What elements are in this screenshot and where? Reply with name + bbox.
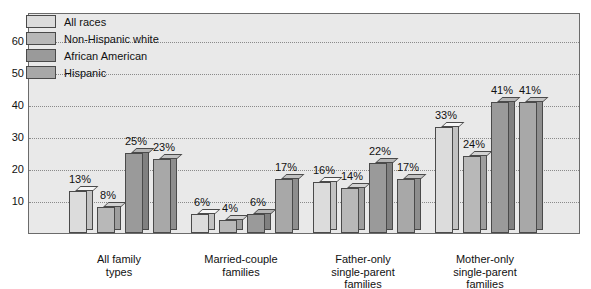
y-tick-label: 30 (0, 132, 24, 143)
bar (519, 102, 537, 233)
bar-top-face (441, 122, 465, 127)
x-category-label: Mother-onlysingle-parentfamilies (399, 253, 571, 289)
y-tick-label: 10 (0, 196, 24, 207)
bar-value-label: 6% (238, 197, 278, 208)
bar (125, 153, 143, 233)
legend-swatch-all-races (26, 15, 56, 28)
bar-front-face (341, 188, 359, 233)
bar-value-label: 17% (266, 162, 306, 173)
bar-top-face (497, 97, 521, 102)
bar (69, 191, 87, 233)
x-category-label-line: Mother-only (399, 253, 571, 266)
bar-value-label: 33% (426, 110, 466, 121)
legend-item: Hispanic (26, 64, 159, 81)
bar-side-face (481, 153, 487, 230)
legend-swatch-african-american (26, 49, 56, 62)
legend-swatch-non-hispanic-white (26, 32, 56, 45)
bar (369, 163, 387, 233)
bar-value-label: 41% (510, 85, 550, 96)
bar-side-face (537, 99, 543, 230)
bar-top-face (159, 154, 183, 159)
legend-label: African American (64, 50, 147, 62)
bar-value-label: 23% (144, 142, 184, 153)
bar (313, 182, 331, 233)
bar-value-label: 22% (360, 146, 400, 157)
bar-side-face (415, 176, 421, 230)
legend-label: All races (64, 16, 106, 28)
bar-front-face (491, 102, 509, 233)
bar-front-face (463, 156, 481, 233)
bar (463, 156, 481, 233)
x-category-label-line: families (399, 278, 571, 289)
bar (397, 179, 415, 233)
bar-top-face (525, 97, 549, 102)
bar-front-face (369, 163, 387, 233)
bar-front-face (153, 159, 171, 233)
bar-front-face (519, 102, 537, 233)
bar-front-face (69, 191, 87, 233)
legend-swatch-hispanic (26, 66, 56, 79)
bar-front-face (397, 179, 415, 233)
bar-side-face (293, 176, 299, 230)
legend-item: All races (26, 13, 159, 30)
bar-side-face (143, 150, 149, 230)
bar-value-label: 14% (332, 171, 372, 182)
bar-front-face (275, 179, 293, 233)
bar (153, 159, 171, 233)
bar-top-face (281, 174, 305, 179)
legend-label: Hispanic (64, 67, 106, 79)
bar-front-face (219, 220, 237, 233)
bar-value-label: 17% (388, 162, 428, 173)
bar-side-face (115, 204, 121, 230)
y-tick-label: 60 (0, 36, 24, 47)
bar (97, 207, 115, 233)
y-tick-label: 50 (0, 68, 24, 79)
legend-label: Non-Hispanic white (64, 33, 159, 45)
bar-side-face (359, 185, 365, 230)
y-tick-label: 40 (0, 100, 24, 111)
bar-value-label: 24% (454, 139, 494, 150)
bar-front-face (97, 207, 115, 233)
bar (435, 127, 453, 233)
bar (275, 179, 293, 233)
bar-side-face (509, 99, 515, 230)
bar-side-face (171, 156, 177, 230)
bar-side-face (331, 179, 337, 230)
bar-top-face (469, 151, 493, 156)
x-category-label-line: single-parent (399, 266, 571, 279)
bar-top-face (347, 183, 371, 188)
bar-top-face (403, 174, 427, 179)
bar (247, 214, 265, 233)
bar-top-face (225, 215, 249, 220)
bar-value-label: 13% (60, 174, 100, 185)
bar-top-face (103, 202, 127, 207)
legend-item: African American (26, 47, 159, 64)
bar-top-face (253, 209, 277, 214)
chart-legend: All races Non-Hispanic white African Ame… (26, 13, 159, 81)
bar (491, 102, 509, 233)
bar-front-face (247, 214, 265, 233)
bar-value-label: 8% (88, 190, 128, 201)
legend-item: Non-Hispanic white (26, 30, 159, 47)
bar (341, 188, 359, 233)
bar-front-face (125, 153, 143, 233)
bar (191, 214, 209, 233)
bar-front-face (313, 182, 331, 233)
y-tick-label: 20 (0, 164, 24, 175)
bar-front-face (191, 214, 209, 233)
bar-front-face (435, 127, 453, 233)
bar-chart: 13%8%25%23%6%4%6%17%16%14%22%17%33%24%41… (0, 0, 591, 289)
bar (219, 220, 237, 233)
